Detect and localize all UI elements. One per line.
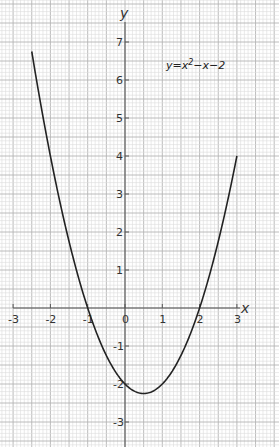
svg-text:-3: -3 — [8, 313, 19, 326]
x-axis-label: x — [240, 300, 250, 316]
svg-text:3: 3 — [116, 188, 123, 201]
svg-text:4: 4 — [116, 150, 123, 163]
parabola-chart: -3-2-10123-3-2-11234567 x y y=x2−x−2 — [0, 0, 279, 447]
equation-label: y=x2−x−2 — [165, 58, 225, 72]
svg-text:5: 5 — [116, 112, 123, 125]
grid — [0, 0, 279, 447]
svg-text:1: 1 — [159, 313, 166, 326]
svg-text:7: 7 — [116, 36, 123, 49]
svg-text:0: 0 — [122, 313, 129, 326]
axes — [13, 22, 240, 447]
svg-text:-2: -2 — [45, 313, 56, 326]
svg-text:-1: -1 — [113, 340, 124, 353]
y-axis-label: y — [119, 5, 129, 21]
svg-text:-3: -3 — [113, 416, 124, 429]
svg-text:1: 1 — [116, 264, 123, 277]
svg-text:6: 6 — [116, 74, 123, 87]
svg-text:3: 3 — [234, 313, 241, 326]
svg-text:2: 2 — [116, 226, 123, 239]
